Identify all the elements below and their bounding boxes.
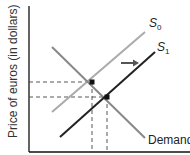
- equilibrium-point-0: [90, 80, 95, 85]
- supply-curve-s0: [52, 32, 145, 112]
- y-axis-label: Price of euros (in dollars): [6, 8, 20, 138]
- demand-label: Demand: [148, 133, 190, 147]
- s0-label: S0: [149, 16, 161, 32]
- s1-label: S1: [157, 40, 169, 56]
- demand-curve: [52, 47, 145, 138]
- equilibrium-point-1: [105, 95, 110, 100]
- equilibrium-guides: [29, 82, 107, 152]
- shift-arrow-icon: [121, 60, 139, 67]
- supply-demand-chart: [0, 0, 190, 155]
